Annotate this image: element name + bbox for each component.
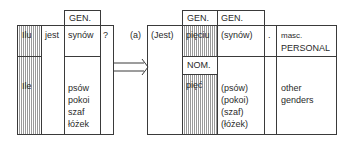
right-gen-header-2: GEN. [221,13,243,24]
right-numeral-pieciu: pięciu [186,30,210,41]
noun-lozek: (łóżek) [221,118,249,130]
right-gen-header-1: GEN. [187,13,209,24]
left-word-ilu: Ilu [22,30,32,41]
right-noun-synow: (synów) [221,30,253,41]
gender-other-line-2: genders [281,94,314,106]
left-word-synow: synów [68,30,94,41]
right-period: . [268,30,271,41]
right-verb-jest: (Jest) [151,30,174,41]
noun-psow: (psów) [221,82,249,94]
noun-psow: psów [68,82,90,94]
left-noun-list: psów pokoi szaf łóżek [68,82,90,130]
left-gen-header: GEN. [69,13,91,24]
gender-other-line-1: other [281,82,314,94]
gender-masc-personal: masc. PERSONAL [281,30,330,54]
right-numeral-piec: pięć [186,80,203,91]
noun-pokoi: pokoi [68,94,90,106]
right-label-a: (a) [130,30,141,41]
noun-szaf: szaf [68,106,90,118]
gender-other: other genders [281,82,314,106]
gender-line-1: masc. [281,30,330,42]
left-question-mark: ? [103,30,108,41]
right-noun-list: (psów) (pokoi) (szaf) (łóżek) [221,82,249,130]
noun-pokoi: (pokoi) [221,94,249,106]
left-word-jest: jest [45,30,59,41]
gender-line-2: PERSONAL [281,42,330,54]
right-nom-header: NOM. [187,60,211,71]
shaded-column-left [18,26,41,134]
noun-lozek: łóżek [68,118,90,130]
double-arrow-icon [112,58,150,76]
left-word-ile: Ile [22,81,32,92]
noun-szaf: (szaf) [221,106,249,118]
